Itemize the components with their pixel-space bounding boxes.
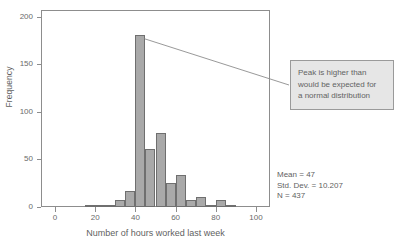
stat-n: N = 437 — [277, 191, 343, 202]
x-axis-tick-mark — [55, 207, 56, 212]
histogram-bar — [216, 200, 226, 207]
x-axis-tick-label: 40 — [123, 213, 147, 222]
x-axis-tick-label: 20 — [83, 213, 107, 222]
x-axis-tick-label: 100 — [244, 213, 268, 222]
histogram-bar — [115, 200, 125, 207]
y-axis-tick-mark — [37, 159, 41, 160]
x-axis-tick-label: 60 — [164, 213, 188, 222]
annotation-line-1: Peak is higher than — [298, 67, 387, 79]
x-axis-tick-mark — [256, 207, 257, 212]
x-axis-tick-mark — [176, 207, 177, 212]
histogram-bar — [196, 197, 206, 207]
y-axis-tick-label: 150 — [20, 60, 33, 68]
histogram-bar — [186, 200, 196, 207]
y-axis-tick-mark — [37, 17, 41, 18]
x-axis-tick-label: 0 — [43, 213, 67, 222]
histogram-bar — [135, 35, 145, 207]
histogram-bar — [156, 133, 166, 207]
histogram-bar — [176, 175, 186, 207]
stat-std-dev: Std. Dev. = 10.207 — [277, 181, 343, 192]
y-axis-tick-mark — [37, 112, 41, 113]
x-axis-tick-mark — [216, 207, 217, 212]
statistics-block: Mean = 47 Std. Dev. = 10.207 N = 437 — [277, 170, 343, 202]
x-axis-tick-mark — [95, 207, 96, 212]
y-axis-title: Frequency — [4, 42, 14, 132]
annotation-callout: Peak is higher than would be expected fo… — [290, 60, 394, 110]
x-axis-tick-label: 80 — [204, 213, 228, 222]
histogram-bar — [166, 183, 176, 207]
histogram-bar — [125, 191, 135, 207]
histogram-figure: 050100150200 Frequency 020406080100 Numb… — [0, 0, 405, 247]
x-axis-tick-mark — [135, 207, 136, 212]
annotation-line-2: would be expected for — [298, 79, 387, 91]
y-axis-tick-label: 50 — [24, 155, 33, 163]
annotation-line-3: a normal distribution — [298, 90, 387, 102]
y-axis-tick-label: 200 — [20, 13, 33, 21]
stat-mean: Mean = 47 — [277, 170, 343, 181]
histogram-bar — [145, 149, 155, 207]
y-axis-tick-mark — [37, 64, 41, 65]
y-axis-tick-label: 100 — [20, 108, 33, 116]
bars-layer — [41, 10, 270, 207]
x-axis-title: Number of hours worked last week — [41, 228, 270, 238]
